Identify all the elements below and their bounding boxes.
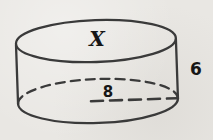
radius-label: 8	[103, 83, 113, 101]
top-face-label: X	[87, 27, 106, 51]
cylinder-diagram: X 6 8	[0, 0, 213, 140]
height-label: 6	[190, 59, 202, 79]
cylinder-left-side-line	[16, 45, 18, 104]
cylinder-bottom-front-arc	[18, 98, 179, 126]
cylinder-drawing: X 6 8	[0, 0, 213, 140]
cylinder-right-side-line	[176, 39, 178, 98]
